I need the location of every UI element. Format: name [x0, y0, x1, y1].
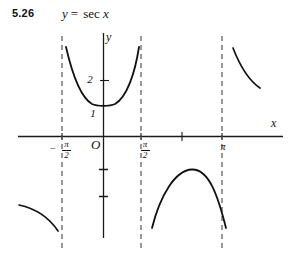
origin-label: O: [91, 137, 100, 153]
y-axis-label: y: [106, 30, 111, 45]
x-tick-label-neg-half-pi: − π 2: [48, 140, 78, 160]
x-tick-label-half-pi: π 2: [133, 140, 157, 160]
curve-branch-upper-right: [233, 48, 260, 88]
fraction-numerator: π: [62, 140, 71, 149]
textbook-figure: 5.26 y=sec x x y O 2 1: [0, 0, 293, 259]
curve-branch-lower-left: [19, 205, 58, 231]
x-tick-label-pi: π: [217, 141, 229, 152]
curve-branch-center-down: [152, 169, 226, 228]
fraction-denominator: 2: [133, 151, 157, 160]
fraction-stack: π 2: [62, 140, 71, 160]
minus-sign: −: [50, 144, 56, 154]
y-tick-label-1: 1: [87, 107, 99, 119]
x-axis-label: x: [271, 116, 276, 131]
y-tick-label-2: 2: [84, 73, 96, 85]
curve-branch-center-up: [66, 47, 139, 106]
plot-area: [0, 0, 293, 259]
fraction-denominator: 2: [62, 151, 71, 160]
fraction-numerator: π: [133, 140, 157, 149]
